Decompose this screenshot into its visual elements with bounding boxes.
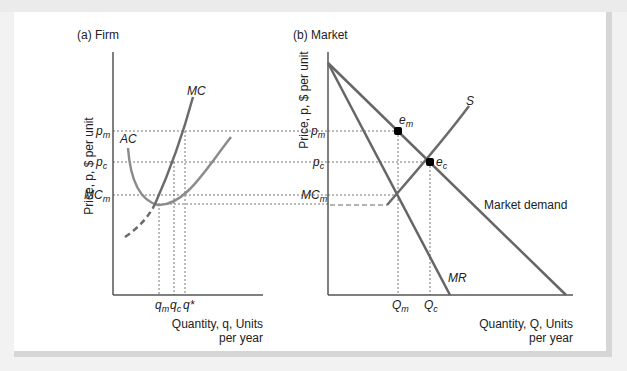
market-tick-qc: Qc xyxy=(424,298,438,314)
point-em xyxy=(394,127,402,135)
mr-curve xyxy=(328,63,450,295)
firm-tick-pm: pm xyxy=(95,124,111,140)
supply-label: S xyxy=(466,94,474,108)
market-tick-qm: Qm xyxy=(392,298,409,314)
market-tick-pc: pc xyxy=(312,155,325,171)
market-tick-mcm: MCm xyxy=(301,188,328,204)
firm-tick-qc: qc xyxy=(170,298,182,314)
firm-tick-pc: pc xyxy=(95,155,108,171)
firm-tick-qm: qm xyxy=(155,298,170,314)
market-guide-lines xyxy=(328,131,430,295)
market-tick-pm: pm xyxy=(310,124,326,140)
mc-label: MC xyxy=(187,84,206,98)
firm-x-axis-label-2: per year xyxy=(219,331,263,345)
market-x-axis-label-1: Quantity, Q, Units xyxy=(479,317,573,331)
firm-guide-lines xyxy=(113,131,328,295)
demand-label: Market demand xyxy=(484,198,567,212)
market-y-axis-label: Price, p, $ per unit xyxy=(297,51,311,149)
market-axes xyxy=(328,52,573,295)
panel-market: (b) Market Price, p, $ per unit em ec xyxy=(293,28,573,345)
firm-tick-mcm: MCm xyxy=(84,188,111,204)
point-ec xyxy=(426,158,434,166)
firm-tick-qstar: q* xyxy=(183,298,195,312)
mc-curve-dashed xyxy=(125,204,155,237)
ec-label: ec xyxy=(436,155,448,171)
em-label: em xyxy=(399,113,414,129)
mr-label: MR xyxy=(448,271,467,285)
market-demand-curve xyxy=(328,63,566,295)
panel-firm-title: (a) Firm xyxy=(77,28,119,42)
economics-diagram: (a) Firm Price, p, $ per unit MC AC xyxy=(0,0,627,371)
ac-curve xyxy=(128,137,231,205)
market-x-axis-label-2: per year xyxy=(529,331,573,345)
panel-market-title: (b) Market xyxy=(293,28,348,42)
panel-firm: (a) Firm Price, p, $ per unit MC AC xyxy=(77,28,328,345)
ac-label: AC xyxy=(119,132,137,146)
firm-x-axis-label-1: Quantity, q, Units xyxy=(172,317,263,331)
